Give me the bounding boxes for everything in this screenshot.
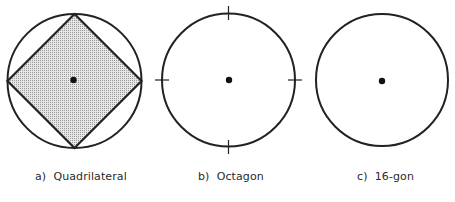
caption-16-gon: c) 16-gon [357,170,414,183]
panel-octagon [155,6,302,154]
panel-16-gon [316,14,448,146]
panel-quadrilateral [8,14,142,148]
center-dot [226,77,232,83]
caption-octagon: b) Octagon [198,170,264,183]
center-dot [379,78,385,84]
caption-quadrilateral: a) Quadrilateral [35,170,127,183]
center-dot [70,77,76,83]
polygon-approximation-figure: a) Quadrilateral b) Octagon c) 16-gon [0,0,455,202]
